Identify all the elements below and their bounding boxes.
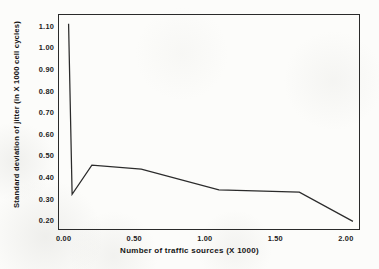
y-axis-title: Standard deviation of jitter (in X 1000 …: [12, 15, 21, 215]
x-axis-tick-label: 0.50: [127, 234, 142, 243]
chart-figure: 0.200.300.400.500.600.700.800.901.001.10…: [0, 0, 379, 269]
x-axis-title: Number of traffic sources (X 1000): [0, 246, 379, 255]
x-axis-tick-label: 2.00: [338, 234, 353, 243]
x-axis-tick-label: 1.50: [268, 234, 283, 243]
x-axis-tick-label: 1.00: [197, 234, 212, 243]
data-series-line: [69, 24, 353, 222]
x-axis-tick-label: 0.00: [56, 234, 71, 243]
plot-area: [58, 14, 360, 230]
